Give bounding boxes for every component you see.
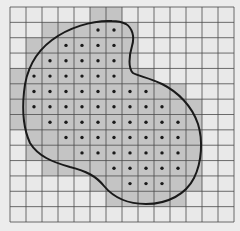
empty-cell: [202, 115, 218, 130]
shaded-cell: [90, 161, 106, 176]
interior-dot: [160, 120, 163, 123]
interior-dot: [64, 105, 67, 108]
empty-cell: [10, 130, 26, 145]
empty-cell: [202, 161, 218, 176]
interior-dot: [160, 182, 163, 185]
empty-cell: [202, 7, 218, 22]
empty-cell: [218, 38, 234, 53]
empty-cell: [10, 145, 26, 160]
empty-cell: [218, 68, 234, 83]
empty-cell: [42, 176, 58, 191]
empty-cell: [218, 207, 234, 222]
interior-dot: [112, 120, 115, 123]
empty-cell: [218, 115, 234, 130]
shaded-cell: [42, 145, 58, 160]
interior-dot: [96, 44, 99, 47]
empty-cell: [10, 176, 26, 191]
shaded-cell: [90, 7, 106, 22]
empty-cell: [202, 68, 218, 83]
empty-cell: [202, 38, 218, 53]
interior-dot: [128, 90, 131, 93]
shaded-cell: [26, 115, 42, 130]
empty-cell: [90, 191, 106, 206]
interior-dot: [64, 136, 67, 139]
empty-cell: [58, 207, 74, 222]
shaded-cell: [90, 176, 106, 191]
interior-dot: [64, 59, 67, 62]
interior-dot: [128, 151, 131, 154]
empty-cell: [10, 53, 26, 68]
empty-cell: [186, 191, 202, 206]
interior-dot: [128, 136, 131, 139]
empty-cell: [202, 130, 218, 145]
empty-cell: [186, 22, 202, 37]
interior-dot: [160, 151, 163, 154]
interior-dot: [48, 105, 51, 108]
shaded-cell: [42, 22, 58, 37]
empty-cell: [10, 7, 26, 22]
empty-cell: [154, 7, 170, 22]
empty-cell: [138, 22, 154, 37]
empty-cell: [202, 207, 218, 222]
interior-dot: [176, 136, 179, 139]
interior-dot: [112, 74, 115, 77]
empty-cell: [74, 176, 90, 191]
interior-dot: [112, 167, 115, 170]
empty-cell: [154, 22, 170, 37]
interior-dot: [176, 120, 179, 123]
empty-cell: [186, 38, 202, 53]
interior-dot: [176, 151, 179, 154]
empty-cell: [218, 161, 234, 176]
interior-dot: [112, 59, 115, 62]
interior-dot: [80, 44, 83, 47]
interior-dot: [112, 44, 115, 47]
interior-dot: [96, 136, 99, 139]
interior-dot: [144, 136, 147, 139]
interior-dot: [32, 74, 35, 77]
interior-dot: [80, 151, 83, 154]
empty-cell: [42, 191, 58, 206]
shaded-cell: [122, 68, 138, 83]
empty-cell: [186, 68, 202, 83]
interior-dot: [128, 182, 131, 185]
interior-dot: [96, 105, 99, 108]
empty-cell: [218, 130, 234, 145]
interior-dot: [144, 151, 147, 154]
empty-cell: [26, 191, 42, 206]
empty-cell: [186, 84, 202, 99]
empty-cell: [218, 191, 234, 206]
interior-dot: [80, 136, 83, 139]
empty-cell: [202, 191, 218, 206]
empty-cell: [58, 176, 74, 191]
empty-cell: [10, 161, 26, 176]
interior-dot: [96, 120, 99, 123]
shaded-cell: [154, 191, 170, 206]
empty-cell: [10, 191, 26, 206]
shaded-cell: [122, 191, 138, 206]
interior-dot: [80, 90, 83, 93]
interior-dot: [176, 167, 179, 170]
empty-cell: [74, 207, 90, 222]
interior-dot: [48, 74, 51, 77]
empty-cell: [170, 7, 186, 22]
empty-cell: [26, 22, 42, 37]
empty-cell: [10, 207, 26, 222]
shaded-cell: [122, 22, 138, 37]
empty-cell: [218, 53, 234, 68]
interior-dot: [32, 105, 35, 108]
interior-dot: [160, 167, 163, 170]
empty-cell: [170, 38, 186, 53]
empty-cell: [26, 7, 42, 22]
interior-dot: [64, 120, 67, 123]
empty-cell: [202, 145, 218, 160]
empty-cell: [186, 7, 202, 22]
grid-region-diagram: [0, 0, 240, 231]
empty-cell: [218, 84, 234, 99]
interior-dot: [32, 90, 35, 93]
interior-dot: [96, 74, 99, 77]
empty-cell: [10, 38, 26, 53]
interior-dot: [96, 28, 99, 31]
empty-cell: [170, 207, 186, 222]
interior-dot: [160, 105, 163, 108]
interior-dot: [112, 28, 115, 31]
